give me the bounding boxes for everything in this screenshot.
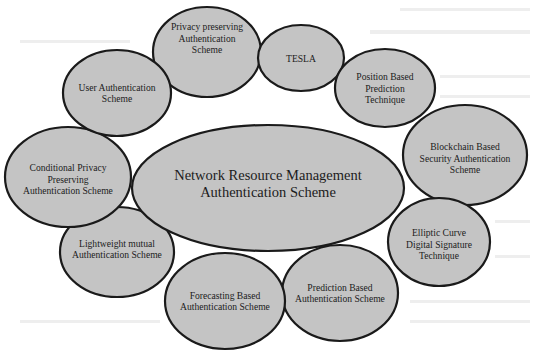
node-label-line: Authentication Scheme [72, 249, 162, 260]
nodes-layer: Privacy preservingAuthenticationSchemeTE… [5, 7, 527, 349]
node-label-line: Technique [419, 250, 459, 261]
node-user-authentication: User AuthenticationScheme [63, 50, 171, 136]
node-label-line: Elliptic Curve [412, 227, 466, 238]
node-label-line: Blockchain Based [430, 141, 500, 152]
node-label-line: Lightweight mutual [79, 238, 155, 249]
node-label-line: Technique [365, 94, 405, 105]
node-label-line: Authentication Scheme [180, 301, 270, 312]
node-tesla: TESLA [258, 25, 344, 91]
node-conditional-privacy-preserving: Conditional PrivacyPreservingAuthenticat… [5, 127, 131, 227]
node-position-based-prediction: Position BasedPredictionTechnique [335, 49, 435, 127]
node-label-line: Forecasting Based [190, 290, 261, 301]
node-elliptic-curve-digital-signature: Elliptic CurveDigital SignatureTechnique [388, 198, 490, 286]
node-label-line: Scheme [102, 93, 132, 104]
node-label-line: Network Resource Management [174, 167, 362, 183]
node-label-line: Scheme [192, 44, 222, 55]
node-blockchain-based-security: Blockchain BasedSecurity AuthenticationS… [403, 105, 527, 205]
node-forecasting-based: Forecasting BasedAuthentication Scheme [165, 253, 285, 349]
node-label-line: Prediction Based [307, 282, 372, 293]
node-label-line: Authentication Scheme [23, 185, 113, 196]
node-label-line: Prediction [365, 83, 405, 94]
node-label-line: Digital Signature [406, 239, 472, 250]
node-label-line: Security Authentication [420, 153, 511, 164]
node-label-line: Position Based [356, 71, 414, 82]
node-label-line: Preserving [47, 174, 88, 185]
authentication-scheme-diagram: Privacy preservingAuthenticationSchemeTE… [0, 0, 534, 353]
node-prediction-based: Prediction BasedAuthentication Scheme [282, 245, 398, 341]
node-network-resource-management: Network Resource ManagementAuthenticatio… [132, 125, 404, 251]
node-label-line: Privacy preserving [171, 21, 243, 32]
node-label-line: Scheme [450, 164, 480, 175]
node-label-line: Authentication [178, 33, 235, 44]
node-label-line: Conditional Privacy [29, 162, 106, 173]
node-label-line: Authentication Scheme [295, 293, 385, 304]
node-label-line: TESLA [286, 53, 316, 64]
node-label-line: User Authentication [79, 82, 156, 93]
node-label-line: Authentication Scheme [200, 184, 336, 200]
